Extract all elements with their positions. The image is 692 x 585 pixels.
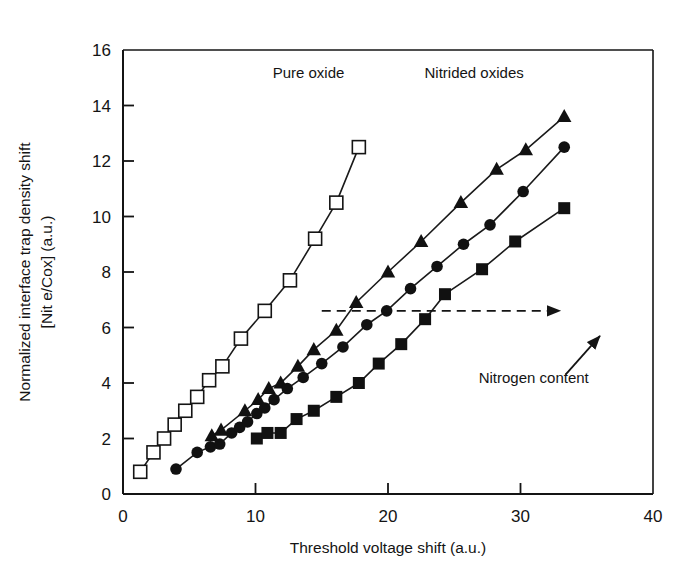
y-tick-label: 0 [102, 485, 111, 504]
marker-open-square [134, 465, 147, 478]
y-tick-label: 2 [102, 430, 111, 449]
marker-open-square [203, 374, 216, 387]
marker-open-square [168, 418, 181, 431]
marker-filled-square [251, 433, 263, 445]
marker-filled-circle [259, 402, 271, 414]
marker-open-square [283, 274, 296, 287]
marker-filled-circle [170, 463, 182, 475]
marker-filled-circle [191, 447, 203, 459]
marker-filled-circle [297, 372, 309, 384]
marker-filled-square [291, 413, 303, 425]
marker-filled-square [275, 427, 287, 439]
marker-filled-circle [242, 416, 254, 428]
marker-filled-square [353, 377, 365, 389]
marker-filled-square [395, 338, 407, 350]
marker-filled-circle [458, 238, 470, 250]
y-axis-title-line2: [Nit e/Cox] (a.u.) [38, 216, 55, 329]
y-tick-label: 4 [102, 374, 111, 393]
y-tick-label: 16 [92, 41, 111, 60]
marker-filled-square [509, 235, 521, 247]
marker-filled-circle [484, 219, 496, 231]
marker-open-square [234, 332, 247, 345]
y-tick-label: 8 [102, 263, 111, 282]
marker-open-square [147, 446, 160, 459]
marker-filled-circle [405, 283, 417, 295]
marker-filled-square [439, 288, 451, 300]
marker-open-square [158, 432, 171, 445]
y-tick-label: 6 [102, 319, 111, 338]
x-tick-label: 10 [246, 507, 265, 526]
marker-filled-square [476, 263, 488, 275]
y-tick-label: 14 [92, 97, 111, 116]
chart-svg: 0246810121416 010203040 Pure oxideNitrid… [0, 0, 692, 585]
x-axis-title: Threshold voltage shift (a.u.) [290, 539, 486, 556]
marker-open-square [179, 404, 192, 417]
marker-open-square [258, 304, 271, 317]
marker-open-square [216, 360, 229, 373]
marker-filled-square [261, 427, 273, 439]
marker-filled-circle [337, 341, 349, 353]
marker-filled-square [330, 391, 342, 403]
y-tick-label: 12 [92, 152, 111, 171]
marker-filled-circle [517, 186, 529, 198]
marker-filled-circle [431, 261, 443, 273]
marker-filled-square [419, 313, 431, 325]
marker-open-square [330, 196, 343, 209]
y-axis-title-line1: Normalized interface trap density shift [16, 142, 33, 402]
marker-filled-circle [268, 394, 280, 406]
x-tick-label: 30 [511, 507, 530, 526]
x-tick-label: 20 [379, 507, 398, 526]
y-tick-label: 10 [92, 208, 111, 227]
marker-filled-circle [214, 438, 226, 450]
nitrided-oxides-label: Nitrided oxides [425, 64, 524, 81]
marker-open-square [191, 390, 204, 403]
marker-open-square [309, 232, 322, 245]
marker-filled-circle [316, 358, 328, 370]
marker-open-square [352, 141, 365, 154]
x-tick-label: 0 [118, 507, 127, 526]
marker-filled-circle [361, 319, 373, 331]
pure-oxide-label: Pure oxide [273, 64, 345, 81]
marker-filled-circle [558, 141, 570, 153]
nitrogen-content-label: Nitrogen content [479, 369, 590, 386]
marker-filled-square [308, 405, 320, 417]
marker-filled-circle [282, 383, 294, 395]
chart-figure: 0246810121416 010203040 Pure oxideNitrid… [0, 0, 692, 585]
marker-filled-square [373, 358, 385, 370]
marker-filled-square [558, 202, 570, 214]
x-tick-label: 40 [644, 507, 663, 526]
